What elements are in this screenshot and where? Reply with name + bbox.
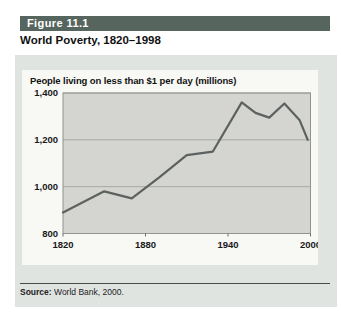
source-text: World Bank, 2000. <box>52 287 124 297</box>
figure-number-label: Figure 11.1 <box>27 17 89 29</box>
y-tick-label: 1,400 <box>34 87 58 98</box>
figure-title: World Poverty, 1820–1998 <box>20 34 320 46</box>
source-note: Source: World Bank, 2000. <box>20 287 320 297</box>
x-tick-label: 2000 <box>300 239 318 250</box>
x-tick-label: 1940 <box>217 239 238 250</box>
y-tick-label: 1,000 <box>34 181 58 192</box>
x-tick-label: 1880 <box>135 239 156 250</box>
y-tick-label: 800 <box>42 228 58 239</box>
source-divider <box>20 283 330 284</box>
x-tick-label: 1820 <box>52 239 73 250</box>
figure-number-bar: Figure 11.1 <box>20 16 330 31</box>
poverty-line-chart: 8001,0001,2001,4001820188019402000 <box>22 70 318 258</box>
y-tick-label: 1,200 <box>34 134 58 145</box>
source-label: Source: <box>20 287 52 297</box>
